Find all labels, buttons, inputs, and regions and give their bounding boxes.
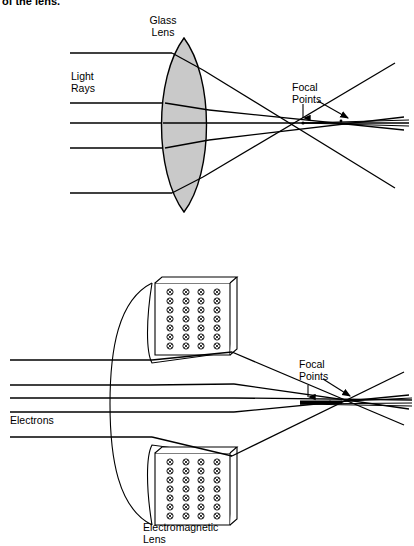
- focal-points-label-line1-bottom: Focal: [299, 358, 325, 370]
- glass-lens-label-line2: Lens: [152, 26, 175, 38]
- focal-points-label-line1-top: Focal: [292, 81, 318, 93]
- focal-points-label-line2-bottom: Points: [299, 370, 328, 382]
- glass-lens-body: [162, 38, 207, 212]
- coil-box-lower-side: [230, 447, 237, 525]
- focal-point-marker-1: [301, 121, 304, 124]
- coil-box-lower: [155, 447, 237, 525]
- electromagnetic-lens-panel: Electrons Focal Points Electromagnetic L…: [10, 277, 412, 545]
- coil-box-upper: [155, 277, 237, 355]
- electromagnetic-lens-label-line1: Electromagnetic: [143, 521, 218, 533]
- lens-comparison-figure: of the lens.: [0, 0, 414, 546]
- electrons-label: Electrons: [10, 414, 54, 426]
- glass-lens-panel: Glass Lens Light Rays Focal Points: [70, 14, 409, 212]
- coil-box-upper-top: [155, 277, 237, 283]
- coil-box-upper-side: [230, 277, 237, 355]
- figure-root: of the lens.: [0, 0, 414, 546]
- electron-beam-group-internal: [149, 352, 234, 456]
- focal-point-marker-2: [340, 120, 343, 123]
- electromagnetic-lens-label-line2: Lens: [143, 533, 166, 545]
- light-rays-label-line2: Rays: [71, 82, 95, 94]
- electron-beam-2-internal: [150, 384, 234, 385]
- magnetic-field-envelope: [110, 283, 152, 525]
- focal-points-label-line2-top: Points: [292, 93, 321, 105]
- focal-points-cluster-blur: [300, 401, 342, 405]
- glass-lens-label-line1: Glass: [150, 14, 177, 26]
- focal-points-leader-arrow-right: [318, 101, 348, 118]
- focal-point-marker-3: [306, 401, 309, 404]
- focal-point-marker-4: [329, 401, 332, 404]
- clipped-caption-text: of the lens.: [2, 0, 60, 7]
- light-rays-label-line1: Light: [71, 70, 94, 82]
